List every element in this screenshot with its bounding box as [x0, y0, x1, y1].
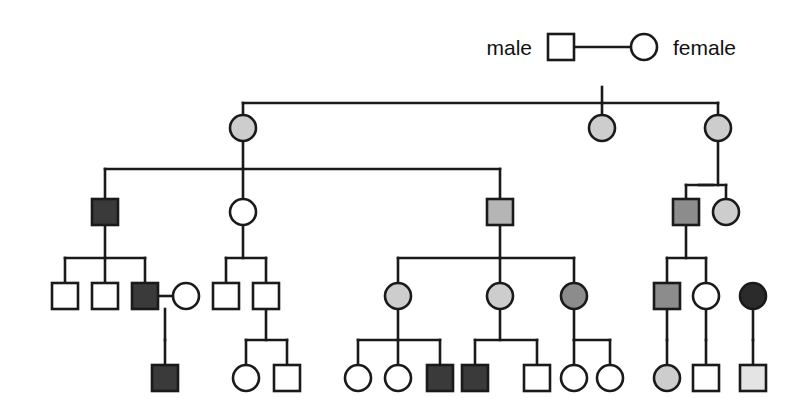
legend-female-label: female [673, 36, 736, 59]
female-symbol[interactable] [230, 115, 256, 141]
female-symbol[interactable] [597, 365, 623, 391]
pedigree-symbols [52, 34, 766, 391]
female-symbol[interactable] [233, 365, 259, 391]
male-symbol[interactable] [462, 365, 488, 391]
male-symbol[interactable] [213, 283, 239, 309]
female-symbol[interactable] [693, 283, 719, 309]
male-symbol[interactable] [740, 365, 766, 391]
female-symbol[interactable] [561, 365, 587, 391]
pedigree-chart: male female [0, 0, 811, 419]
pedigree-canvas: male female [0, 0, 811, 419]
male-symbol[interactable] [548, 34, 574, 60]
male-symbol[interactable] [152, 365, 178, 391]
male-symbol[interactable] [427, 365, 453, 391]
male-symbol[interactable] [52, 283, 78, 309]
male-symbol[interactable] [92, 283, 118, 309]
female-symbol[interactable] [589, 115, 615, 141]
female-symbol[interactable] [713, 199, 739, 225]
female-symbol[interactable] [740, 283, 766, 309]
female-symbol[interactable] [385, 365, 411, 391]
male-symbol[interactable] [487, 199, 513, 225]
female-symbol[interactable] [173, 283, 199, 309]
male-symbol[interactable] [253, 283, 279, 309]
male-symbol[interactable] [524, 365, 550, 391]
female-symbol[interactable] [487, 283, 513, 309]
connector-lines [65, 47, 753, 365]
male-symbol[interactable] [274, 365, 300, 391]
female-symbol[interactable] [230, 199, 256, 225]
female-symbol[interactable] [631, 34, 657, 60]
male-symbol[interactable] [693, 365, 719, 391]
male-symbol[interactable] [132, 283, 158, 309]
female-symbol[interactable] [654, 365, 680, 391]
male-symbol[interactable] [92, 199, 118, 225]
female-symbol[interactable] [345, 365, 371, 391]
female-symbol[interactable] [385, 283, 411, 309]
legend-male-label: male [486, 36, 532, 59]
female-symbol[interactable] [561, 283, 587, 309]
female-symbol[interactable] [705, 115, 731, 141]
male-symbol[interactable] [673, 199, 699, 225]
male-symbol[interactable] [654, 283, 680, 309]
